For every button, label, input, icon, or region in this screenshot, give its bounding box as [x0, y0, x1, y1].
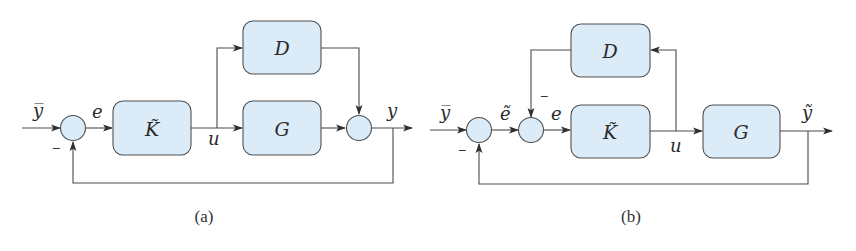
label-u-b: u	[670, 135, 682, 156]
block-g-b-label: G	[733, 121, 748, 143]
label-u-a: u	[208, 128, 220, 149]
label-e-a: e	[92, 101, 103, 122]
diagram-a: y̅ − e K̃ u D G y (a)	[22, 21, 412, 226]
label-ybar-a: y̅	[32, 100, 44, 121]
block-diagrams: y̅ − e K̃ u D G y (a)	[0, 0, 856, 251]
diagram-b: y̅ − ẽ − e D K̃ u G ỹ (b)	[430, 24, 832, 226]
caption-a: (a)	[195, 207, 214, 226]
summing-junction-2-a	[347, 116, 372, 141]
block-k-tilde-b-label: K̃	[602, 121, 619, 143]
u-branch-to-d-a	[217, 48, 242, 128]
block-d-b-label: D	[601, 40, 617, 62]
caption-b: (b)	[621, 207, 641, 226]
label-ybar-b: y̅	[439, 102, 451, 123]
d-to-sum-a	[321, 48, 359, 114]
label-y-a: y	[386, 100, 398, 121]
label-y-tilde-b: ỹ	[801, 102, 813, 123]
summing-junction-2-b	[519, 118, 544, 143]
block-g-a-label: G	[274, 118, 289, 140]
minus-sign-inner-b: −	[540, 88, 548, 104]
block-k-tilde-a-label: K̃	[144, 118, 161, 140]
u-branch-to-d-b	[651, 50, 676, 131]
block-d-a-label: D	[273, 37, 289, 59]
summing-junction-1-a	[61, 116, 86, 141]
label-e-tilde-b: ẽ	[500, 103, 511, 124]
minus-sign-a: −	[52, 140, 60, 156]
minus-sign-outer-b: −	[458, 142, 466, 158]
summing-junction-1-b	[467, 118, 492, 143]
label-e-b: e	[551, 103, 562, 124]
